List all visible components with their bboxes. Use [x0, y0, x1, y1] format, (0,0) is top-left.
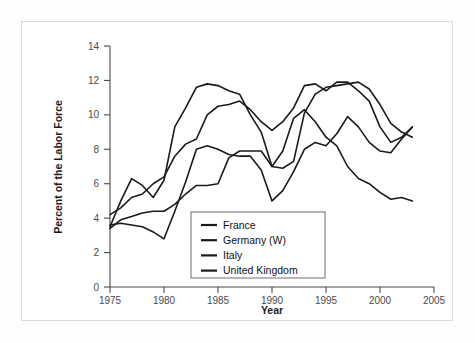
legend-label-3: Italy [223, 249, 243, 261]
y-tick-label: 0 [93, 282, 99, 293]
legend-label-2: Germany (W) [223, 234, 286, 246]
x-axis-title: Year [261, 304, 283, 316]
y-tick-label: 14 [88, 41, 100, 52]
legend-label-1: France [223, 219, 256, 231]
figure-root: 02468101214 1975198019851990199520002005… [0, 0, 475, 343]
legend-label-4: United Kingdom [223, 264, 298, 276]
y-tick-label: 4 [93, 213, 99, 224]
y-axis-title: Percent of the Labor Force [52, 100, 64, 234]
x-tick-label: 2000 [369, 295, 392, 306]
y-tick-label: 2 [93, 247, 99, 258]
chart-legend: FranceGermany (W)ItalyUnited Kingdom [191, 212, 325, 278]
x-tick-label: 2005 [423, 295, 446, 306]
y-tick-label: 8 [93, 144, 99, 155]
y-tick-label: 10 [88, 109, 100, 120]
x-tick-label: 1975 [99, 295, 122, 306]
x-tick-label: 1985 [207, 295, 230, 306]
series-line-united-kingdom [110, 84, 412, 227]
y-tick-label: 6 [93, 178, 99, 189]
y-axis-ticks: 02468101214 [88, 41, 110, 293]
y-tick-label: 12 [88, 75, 100, 86]
x-tick-label: 1980 [153, 295, 176, 306]
line-chart: 02468101214 1975198019851990199520002005… [0, 0, 475, 343]
series-line-italy [110, 82, 412, 228]
x-tick-label: 1995 [315, 295, 338, 306]
